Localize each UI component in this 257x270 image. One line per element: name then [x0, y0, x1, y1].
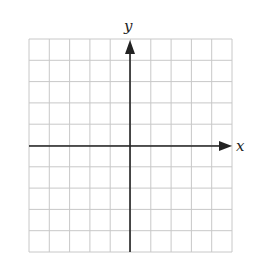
y-axis-label: y [123, 17, 133, 35]
x-axis-arrow-icon [219, 141, 232, 151]
x-axis-label: x [236, 137, 245, 155]
coordinate-plane: x y [0, 0, 257, 270]
y-axis-arrow-icon [125, 40, 135, 54]
